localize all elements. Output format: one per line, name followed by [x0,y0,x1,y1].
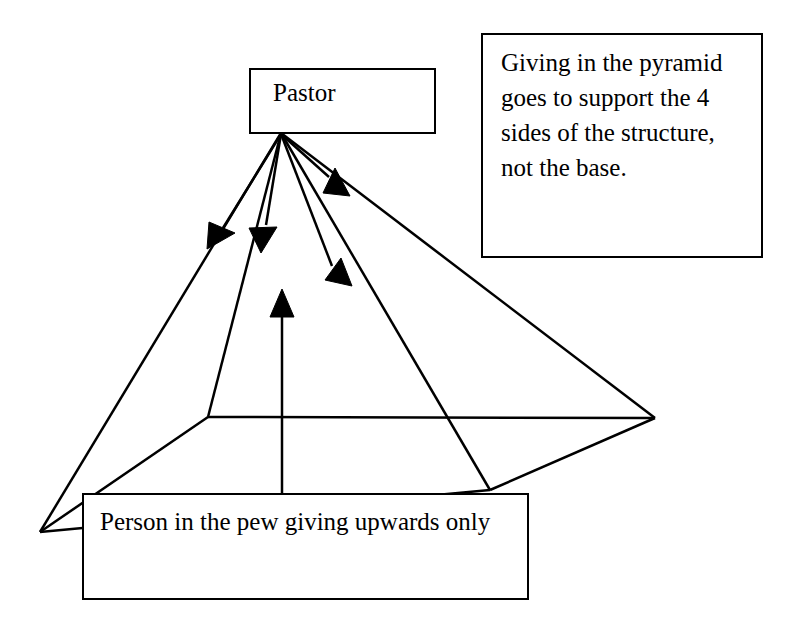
pyramid-edge-apex-front [281,133,490,490]
pyramid-base-front-right [490,418,655,490]
pyramid-base-right-back [208,417,655,418]
diagram-canvas: Pastor Giving in the pyramid goes to sup… [0,0,791,641]
arrow-pastor-to-right-lower [281,134,352,286]
arrow-group-downward [207,134,352,286]
pew-label-box: Person in the pew giving upwards only [82,493,529,600]
pyramid-edge-apex-back [208,133,281,417]
pastor-label-text: Pastor [273,78,336,108]
pastor-label-box: Pastor [249,68,436,134]
arrow-group-upward [270,289,294,493]
note-callout-box: Giving in the pyramid goes to support th… [481,33,763,258]
arrow-pew-to-pastor [270,289,294,493]
arrow-pastor-to-right-upper [281,134,350,196]
pew-label-text: Person in the pew giving upwards only [100,504,519,539]
note-callout-text: Giving in the pyramid goes to support th… [501,45,751,185]
